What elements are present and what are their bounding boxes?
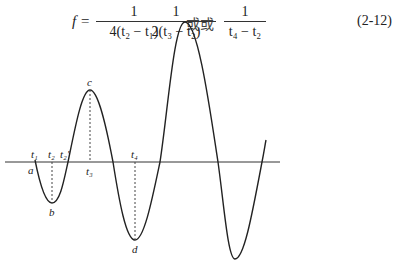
- label-d: d: [132, 243, 138, 255]
- label-t2-prime: t₂′: [60, 148, 70, 160]
- waveform-figure: t₁ t₂ t₂′ t₃ t₄ a b c d: [0, 0, 399, 269]
- label-t4: t₄: [131, 148, 138, 160]
- label-b: b: [49, 206, 55, 218]
- label-c: c: [87, 76, 92, 88]
- label-t3: t₃: [86, 165, 93, 177]
- label-a: a: [28, 164, 34, 176]
- label-t1: t₁: [31, 148, 38, 160]
- waveform-curve: [35, 22, 266, 259]
- label-t2: t₂: [48, 148, 55, 160]
